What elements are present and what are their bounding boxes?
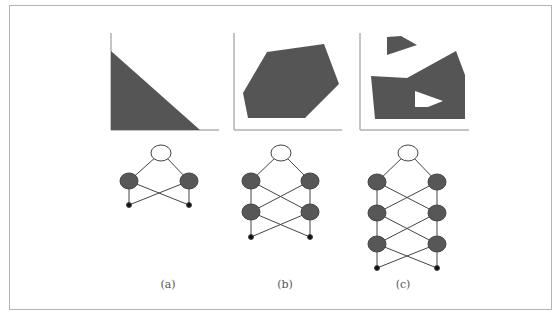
hidden-node [301,204,319,220]
hidden-node [301,173,319,189]
caption-a: (a) [148,278,188,291]
output-node [151,145,171,161]
half-plane-region [111,51,200,130]
hidden-node [428,174,446,190]
input-node [249,235,254,240]
input-node [308,235,313,240]
network-a [120,145,198,208]
large-region [371,51,465,119]
network-b [242,145,319,240]
input-node [187,203,192,208]
output-node [271,145,291,161]
hidden-node [368,236,386,252]
region-plot-c [360,33,469,130]
hidden-node [180,173,198,189]
caption-c: (c) [383,278,423,291]
input-node [435,266,440,271]
hidden-node [242,204,260,220]
input-node [375,266,380,271]
hidden-node [428,236,446,252]
figure-canvas [0,0,560,319]
region-plot-a [111,33,219,130]
small-region [387,36,417,55]
output-node [398,145,418,161]
hidden-node [368,174,386,190]
convex-region [243,44,339,118]
region-plot-b [234,33,342,130]
input-node [127,203,132,208]
hidden-node [120,173,138,189]
hidden-node [242,173,260,189]
hidden-node [428,205,446,221]
caption-b: (b) [265,278,305,291]
network-c [368,145,446,271]
hidden-node [368,205,386,221]
